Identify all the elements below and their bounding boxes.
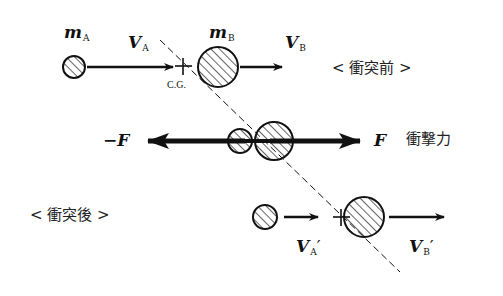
velocity-b-after-symbol: V (409, 236, 422, 256)
ball-a-before (63, 56, 85, 78)
impact-force-label: 衝撃力 (406, 132, 451, 147)
mass-a-label: mA (64, 24, 90, 43)
ball-b-before (198, 47, 238, 87)
velocity-b-label: VB (285, 34, 306, 53)
mass-b-label: mB (209, 24, 235, 43)
impact-group (148, 122, 360, 160)
after-collision-label: < 衝突後 > (30, 208, 110, 223)
velocity-a-label: VA (128, 34, 149, 53)
positive-force-label: F (374, 132, 386, 149)
velocity-a-after-prime: ′ (317, 236, 321, 256)
before-collision-label: < 衝突前 > (332, 61, 412, 76)
mass-a-symbol: m (64, 22, 82, 42)
velocity-b-after-prime: ′ (430, 236, 434, 256)
cg-cross-before (175, 58, 192, 75)
velocity-a-after-symbol: V (296, 236, 309, 256)
after-collision-group (253, 197, 444, 237)
ball-b-after (344, 197, 384, 237)
mass-b-subscript: B (228, 33, 235, 43)
velocity-b-after-subscript: B (423, 247, 430, 257)
ball-a-after (253, 205, 277, 229)
velocity-b-symbol: V (285, 32, 298, 52)
velocity-b-subscript: B (299, 43, 306, 53)
mass-b-symbol: m (209, 22, 227, 42)
mass-a-subscript: A (83, 33, 90, 43)
negative-force-label: −F (103, 132, 129, 149)
velocity-a-after-label: VA′ (296, 238, 321, 257)
velocity-b-after-label: VB′ (409, 238, 434, 257)
velocity-a-symbol: V (128, 32, 141, 52)
center-of-gravity-label: C.G. (167, 80, 186, 90)
velocity-a-subscript: A (142, 43, 149, 53)
